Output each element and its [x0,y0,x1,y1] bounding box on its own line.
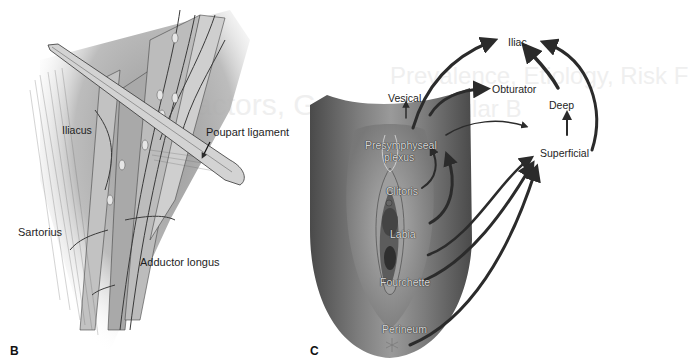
label-plexus: plexus [384,151,414,163]
label-iliac: Iliac [508,36,527,48]
label-fourchette: Fourchette [380,276,430,288]
label-deep: Deep [549,99,574,111]
label-sartorius: Sartorius [18,226,62,238]
label-clitoris: Clitoris [386,185,418,197]
panel-c-illustration [310,42,597,358]
label-iliacus: Iliacus [62,124,92,136]
label-adductor-longus: Adductor longus [140,256,220,268]
label-superficial: Superficial [540,147,589,159]
label-perineum: Perineum [382,323,427,335]
label-obturator: Obturator [492,83,536,95]
label-labia: Labia [390,228,416,240]
label-presymphyseal: Presymphyseal [365,139,437,151]
panel-letter-c: C [310,344,319,358]
panel-letter-b: B [10,344,19,358]
label-vesical: Vesical [388,92,421,104]
panel-b-illustration [30,10,250,350]
label-poupart-ligament: Poupart ligament [206,126,289,138]
